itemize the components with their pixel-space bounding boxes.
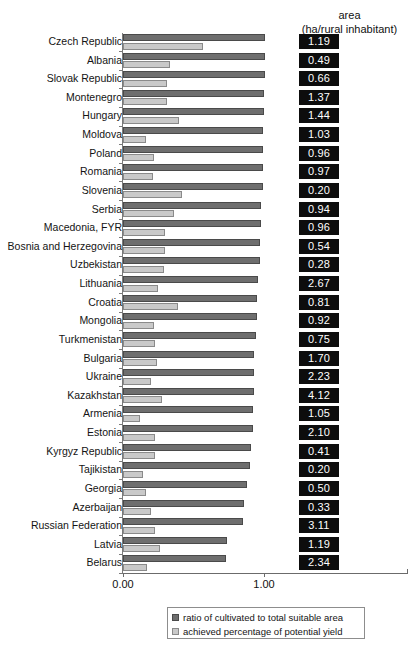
bar-ratio-cultivated xyxy=(123,220,261,227)
chart-row: Mongolia xyxy=(0,312,419,332)
y-axis-row-tick xyxy=(119,479,123,480)
y-axis-row-tick xyxy=(119,535,123,536)
bar-ratio-cultivated xyxy=(123,500,244,507)
category-label: Kazakhstan xyxy=(67,389,122,401)
category-label: Turkmenistan xyxy=(59,333,122,345)
bar-ratio-cultivated xyxy=(123,202,261,209)
category-label: Uzbekistan xyxy=(70,258,122,270)
y-axis-row-tick xyxy=(119,498,123,499)
bar-achieved-yield xyxy=(123,229,165,236)
chart-row: Albania xyxy=(0,52,419,72)
y-axis-row-tick xyxy=(119,275,123,276)
value-chip: 1.44 xyxy=(299,108,339,123)
bar-achieved-yield xyxy=(123,173,153,180)
chart-row: Turkmenistan xyxy=(0,331,419,351)
value-chip: 1.37 xyxy=(299,90,339,105)
bar-achieved-yield xyxy=(123,43,203,50)
legend: ratio of cultivated to total suitable ar… xyxy=(167,607,365,639)
category-label: Belarus xyxy=(86,556,122,568)
bar-achieved-yield xyxy=(123,471,143,478)
category-label: Armenia xyxy=(83,407,122,419)
value-chip: 0.33 xyxy=(299,500,339,515)
bar-ratio-cultivated xyxy=(123,481,247,488)
legend-swatch-yield-icon xyxy=(172,628,179,635)
y-axis-row-tick xyxy=(119,256,123,257)
legend-label-ratio: ratio of cultivated to total suitable ar… xyxy=(183,612,343,623)
y-axis-row-tick xyxy=(119,554,123,555)
value-column-header: area (ha/rural inhabitant) xyxy=(280,8,419,36)
category-label: Tajikistan xyxy=(79,463,122,475)
bar-achieved-yield xyxy=(123,434,155,441)
y-axis-row-tick xyxy=(119,517,123,518)
y-axis-row-tick xyxy=(119,424,123,425)
value-chip: 2.23 xyxy=(299,369,339,384)
category-label: Croatia xyxy=(88,296,122,308)
value-chip: 0.94 xyxy=(299,202,339,217)
bar-achieved-yield xyxy=(123,527,155,534)
y-axis-row-tick xyxy=(119,51,123,52)
value-chip: 0.96 xyxy=(299,220,339,235)
chart-row: Kyrgyz Republic xyxy=(0,443,419,463)
value-chip: 0.92 xyxy=(299,313,339,328)
bar-achieved-yield xyxy=(123,452,155,459)
value-chip: 2.67 xyxy=(299,276,339,291)
chart-row: Bulgaria xyxy=(0,350,419,370)
chart-row: Croatia xyxy=(0,294,419,314)
value-chip: 0.75 xyxy=(299,332,339,347)
bar-achieved-yield xyxy=(123,61,170,68)
bar-ratio-cultivated xyxy=(123,239,260,246)
chart-row: Estonia xyxy=(0,424,419,444)
bar-achieved-yield xyxy=(123,285,158,292)
bar-achieved-yield xyxy=(123,378,151,385)
category-label: Kyrgyz Republic xyxy=(46,445,122,457)
y-axis-row-tick xyxy=(119,219,123,220)
bar-ratio-cultivated xyxy=(123,462,250,469)
category-label: Macedonia, FYR xyxy=(44,221,122,233)
bar-achieved-yield xyxy=(123,117,179,124)
y-axis-row-tick xyxy=(119,88,123,89)
legend-item-yield: achieved percentage of potential yield xyxy=(172,625,360,638)
category-label: Hungary xyxy=(82,109,122,121)
category-label: Georgia xyxy=(85,482,122,494)
chart-row: Kazakhstan xyxy=(0,387,419,407)
bar-ratio-cultivated xyxy=(123,555,226,562)
chart-row: Armenia xyxy=(0,405,419,425)
bar-achieved-yield xyxy=(123,80,167,87)
y-axis-row-tick xyxy=(119,461,123,462)
chart-row: Ukraine xyxy=(0,368,419,388)
chart-row: Hungary xyxy=(0,107,419,127)
x-axis-tick-label: 1.00 xyxy=(253,578,274,590)
bar-achieved-yield xyxy=(123,396,162,403)
chart-row: Slovak Republic xyxy=(0,70,419,90)
y-axis-row-tick xyxy=(119,349,123,350)
value-chip: 1.19 xyxy=(299,537,339,552)
bar-achieved-yield xyxy=(123,322,154,329)
chart-row: Czech Republic xyxy=(0,33,419,53)
value-chip: 0.28 xyxy=(299,257,339,272)
y-axis-row-tick xyxy=(119,405,123,406)
chart-row: Montenegro xyxy=(0,89,419,109)
value-chip: 1.70 xyxy=(299,351,339,366)
y-axis-row-tick xyxy=(119,70,123,71)
y-axis-row-tick xyxy=(119,144,123,145)
bar-ratio-cultivated xyxy=(123,537,227,544)
plot-area: Czech RepublicAlbaniaSlovak RepublicMont… xyxy=(0,33,419,573)
value-chip: 0.96 xyxy=(299,146,339,161)
chart-row: Serbia xyxy=(0,201,419,221)
y-axis-row-tick xyxy=(119,368,123,369)
category-label: Lithuania xyxy=(79,277,122,289)
chart-row: Macedonia, FYR xyxy=(0,219,419,239)
category-label: Mongolia xyxy=(79,314,122,326)
value-column-header-line1: area xyxy=(280,8,419,22)
y-axis-row-tick xyxy=(119,330,123,331)
bar-ratio-cultivated xyxy=(123,369,254,376)
bar-ratio-cultivated xyxy=(123,257,260,264)
chart-row: Russian Federation xyxy=(0,517,419,537)
value-chip: 0.49 xyxy=(299,53,339,68)
chart-row: Azerbaijan xyxy=(0,499,419,519)
chart-row: Latvia xyxy=(0,536,419,556)
y-axis-row-tick xyxy=(119,126,123,127)
category-label: Czech Republic xyxy=(48,35,122,47)
y-axis-row-tick xyxy=(119,181,123,182)
bar-achieved-yield xyxy=(123,154,154,161)
